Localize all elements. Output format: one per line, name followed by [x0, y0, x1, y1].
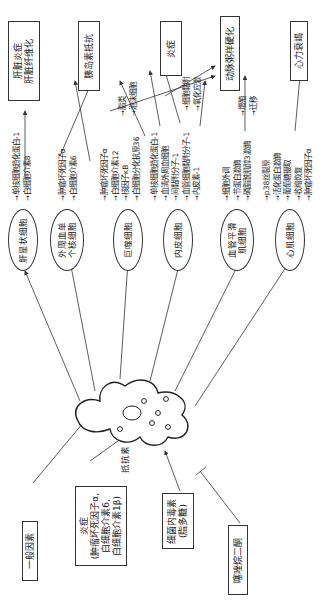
- mediators-pbmc: 肿瘤坏死因子α 白细胞介素6: [58, 148, 79, 201]
- mediator-item: 活化蛋白激酶: [273, 148, 284, 201]
- outcome-label: 炎症: [166, 40, 177, 58]
- input-lps-subtitle: (脂多糖): [178, 504, 189, 538]
- outcome-liver-inflammation-fibrosis: 肝脏炎症 肝脏纤维化: [8, 21, 40, 101]
- mediator-item: 葡萄糖摄取: [283, 148, 294, 201]
- mediator-item: 肿瘤坏死因子α: [58, 148, 69, 201]
- input-inflammation-line: 白细胞介素1β): [112, 496, 123, 556]
- effect-item: 增殖: [238, 96, 249, 116]
- resistin-pathway-diagram: 一般因素 炎症 (肿瘤坏死因子α, 白细胞介素6, 白细胞介素1β) 细菌内毒素…: [0, 0, 331, 601]
- input-inflammation-line: (肿瘤坏死因子α,: [90, 493, 101, 559]
- mediators-hepatic-stellate: 单核细胞趋化蛋白-1 白细胞介素8: [12, 132, 33, 201]
- mediator-item: 间黏附分子-1: [171, 132, 182, 201]
- mediator-item: 单核细胞趋化蛋白-1: [150, 132, 161, 201]
- cell-macrophage: 巨噬细胞: [113, 209, 143, 271]
- input-general-factors: 一般因素: [22, 521, 38, 581]
- outcome-heart-failure: 心力衰竭: [290, 21, 308, 81]
- mediator-item: 细胞外调: [222, 141, 233, 201]
- cell-label: 巨噬细胞: [123, 222, 133, 258]
- adipocyte-cell-icon: [70, 371, 200, 451]
- mediator-item: 白细胞介素8: [23, 132, 34, 201]
- cell-label: 心肌细胞: [285, 222, 295, 258]
- input-inflammation-line: 白细胞介素6,: [101, 499, 112, 553]
- mediator-item: 内皮素-1: [192, 132, 203, 201]
- cell-vascular-smooth-muscle: 血管平滑 肌细胞: [220, 209, 254, 271]
- mediator-item: 磷脂酰肌醇3激酶: [243, 141, 254, 201]
- mediators-endothelial: 单核细胞趋化蛋白-1 血清外周血细胞 间黏附分子-1 血管细胞黏附分子-1 内皮…: [150, 132, 203, 201]
- outcome-label: 心力衰竭: [294, 33, 305, 69]
- outcome-label: 动脉粥样硬化: [225, 27, 236, 81]
- outcome-insulin-resistance: 胰岛素抵抗: [78, 21, 100, 91]
- mediator-item: 白细胞介素6: [69, 148, 80, 201]
- effects-lipid: 脂类 泡沫细胞: [118, 82, 139, 116]
- cell-label: 内皮细胞: [173, 222, 183, 258]
- effect-item: 泡沫细胞: [129, 82, 140, 116]
- mediators-macrophage: 肿瘤坏死因子α 白细胞介素12 核因子κB 白细胞分化抗原36: [100, 137, 142, 201]
- mediator-item: 血清外周血细胞: [161, 132, 172, 201]
- outcome-inflammation: 炎症: [160, 21, 182, 76]
- cell-label: 肌细胞: [237, 227, 247, 254]
- effect-item: 迁移: [249, 96, 260, 116]
- effect-item: 脂类: [118, 82, 129, 116]
- effects-endothelial: 细胞黏附 氧化应激: [182, 77, 203, 111]
- effect-item: 氧化应激: [193, 77, 204, 111]
- cell-endothelial: 内皮细胞: [163, 209, 193, 271]
- effects-vsmc: 增殖 迁移: [238, 96, 259, 116]
- mediator-item: 白细胞介素12: [111, 137, 122, 201]
- cell-label: 肝星状细胞: [18, 218, 28, 263]
- cell-hepatic-stellate: 肝星状细胞: [8, 209, 38, 271]
- input-inflammation-title: 炎症: [79, 517, 90, 535]
- mediator-item: 收缩恢复: [294, 148, 305, 201]
- input-thiazolidinedione: 噻唑烷二酮: [228, 525, 248, 595]
- mediator-item: 单核细胞趋化蛋白-1: [12, 132, 23, 201]
- cell-label: 外周血单: [57, 222, 67, 258]
- mediator-item: 节蛋白激酶: [233, 141, 244, 201]
- mediator-item: 肿瘤坏死因子α: [100, 137, 111, 201]
- input-bacterial-endotoxin: 细菌内毒素 (脂多糖): [162, 493, 194, 549]
- mediator-item: 核因子κB: [121, 137, 132, 201]
- mediator-item: p38丝裂原: [262, 148, 273, 201]
- cell-pbmc: 外周血单 个核细胞: [50, 209, 84, 271]
- effect-item: 细胞黏附: [182, 77, 193, 111]
- input-inflammation: 炎症 (肿瘤坏死因子α, 白细胞介素6, 白细胞介素1β): [75, 486, 127, 566]
- mediator-item: 肿瘤坏死因子α: [304, 148, 315, 201]
- outcome-label: 胰岛素抵抗: [84, 34, 95, 79]
- outcome-label: 肝脏炎症: [13, 43, 24, 79]
- mediator-item: 血管细胞黏附分子-1: [182, 132, 193, 201]
- cell-label: 个核细胞: [67, 222, 77, 258]
- outcome-atherosclerosis: 动脉粥样硬化: [220, 16, 240, 91]
- cell-label: 血管平滑: [227, 222, 237, 258]
- outcome-label: 肝脏纤维化: [24, 39, 35, 84]
- mediators-vsmc: 细胞外调 节蛋白激酶 磷脂酰肌醇3激酶: [222, 141, 254, 201]
- mediators-cardiomyocyte: p38丝裂原 活化蛋白激酶 葡萄糖摄取 收缩恢复 肿瘤坏死因子α: [262, 148, 315, 201]
- cell-cardiomyocyte: 心肌细胞: [275, 209, 305, 271]
- mediator-item: 白细胞分化抗原36: [132, 137, 143, 201]
- input-lps-title: 细菌内毒素: [167, 499, 178, 544]
- resistin-label: 抵抗素: [118, 446, 130, 473]
